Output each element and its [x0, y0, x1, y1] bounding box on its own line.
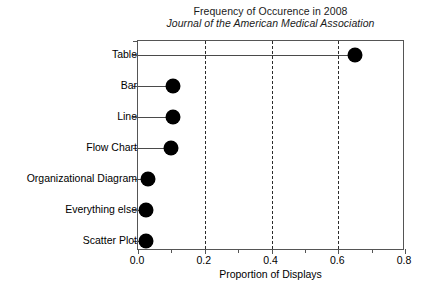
stem-table	[138, 55, 355, 56]
data-point-scatter-plot[interactable]	[139, 234, 154, 249]
gridline-0.4	[272, 41, 273, 249]
chart-subtitle: Journal of the American Medical Associat…	[137, 18, 404, 30]
gridline-0.6	[338, 41, 339, 249]
data-point-flow-chart[interactable]	[164, 141, 179, 156]
x-tick-label-0.4: 0.4	[263, 254, 278, 266]
chart-title-block: Frequency of Occurence in 2008 Journal o…	[137, 6, 404, 30]
gridline-0.2	[205, 41, 206, 249]
data-point-organizational-diagram[interactable]	[141, 172, 156, 187]
chart-title: Frequency of Occurence in 2008	[137, 6, 404, 18]
y-label-everything-else: Everything else	[65, 203, 137, 215]
y-label-line: Line	[117, 110, 137, 122]
data-point-line[interactable]	[166, 110, 181, 125]
x-tick-label-0.8: 0.8	[397, 254, 412, 266]
x-tick-minor-0.7	[372, 249, 373, 253]
y-label-scatter-plot: Scatter Plot	[83, 234, 137, 246]
data-point-everything-else[interactable]	[139, 203, 154, 218]
x-tick-label-0.0: 0.0	[130, 254, 145, 266]
x-tick-label-0.2: 0.2	[196, 254, 211, 266]
x-tick-minor-0.5	[305, 249, 306, 253]
data-point-bar[interactable]	[166, 79, 181, 94]
plot-area	[137, 40, 404, 250]
y-label-flow-chart: Flow Chart	[86, 141, 137, 153]
x-tick-minor-0.1	[171, 249, 172, 253]
y-tick-top	[133, 41, 138, 42]
y-label-table: Table	[112, 48, 137, 60]
x-axis-title: Proportion of Displays	[137, 268, 404, 280]
chart-container: Frequency of Occurence in 2008 Journal o…	[0, 0, 428, 295]
x-tick-label-0.6: 0.6	[330, 254, 345, 266]
y-label-organizational-diagram: Organizational Diagram	[27, 172, 137, 184]
data-point-table[interactable]	[347, 48, 362, 63]
y-label-bar: Bar	[121, 79, 137, 91]
x-tick-minor-0.3	[238, 249, 239, 253]
